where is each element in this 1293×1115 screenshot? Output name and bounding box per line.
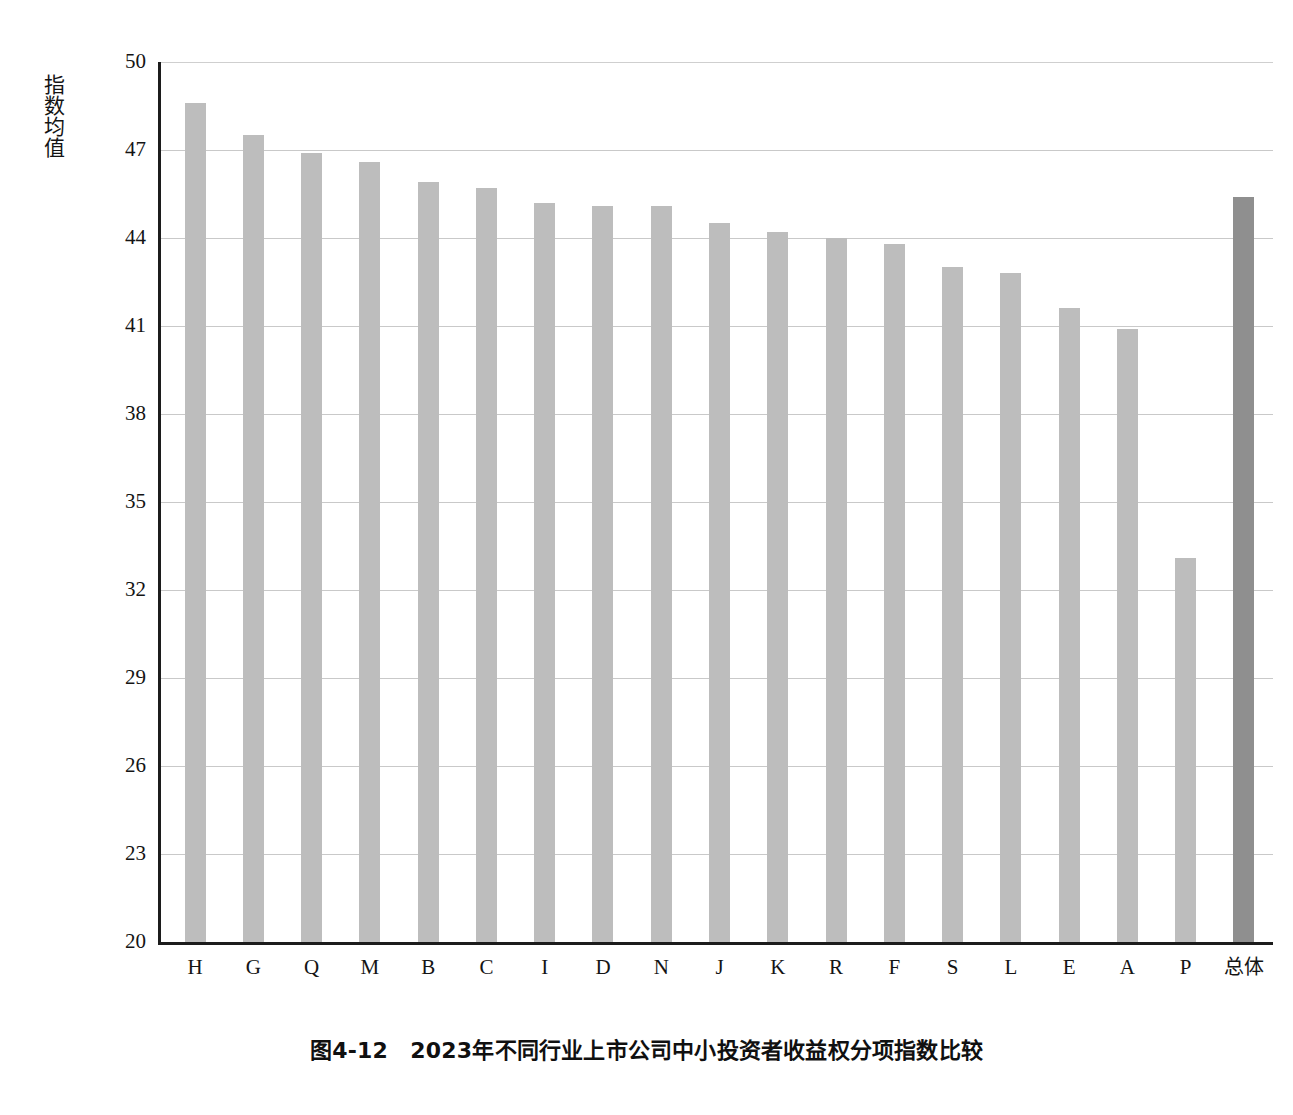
bar-F (884, 244, 905, 942)
y-axis-tick-label: 35 (86, 491, 146, 512)
figure-container: 指数均值 2023262932353841444750 HGQMBCIDNJKR… (0, 0, 1293, 1115)
y-axis-title: 指数均值 (34, 56, 64, 176)
bar-J (709, 223, 730, 942)
bar-H (185, 103, 206, 942)
x-axis-tick-label-C: C (456, 957, 516, 978)
bar-A (1117, 329, 1138, 942)
y-axis-tick-label: 29 (86, 667, 146, 688)
y-axis-line (158, 62, 161, 945)
bar-N (651, 206, 672, 942)
gridline (158, 150, 1273, 151)
x-axis-tick-label-B: B (398, 957, 458, 978)
plot-area (158, 62, 1273, 945)
bar-D (592, 206, 613, 942)
y-axis-tick-label: 47 (86, 139, 146, 160)
y-axis-tick-label: 38 (86, 403, 146, 424)
x-axis-tick-label-G: G (223, 957, 283, 978)
y-axis-tick-label: 32 (86, 579, 146, 600)
x-axis-tick-label-P: P (1156, 957, 1216, 978)
y-axis-tick-label: 26 (86, 755, 146, 776)
x-axis-tick-label-E: E (1039, 957, 1099, 978)
x-axis-tick-label-N: N (631, 957, 691, 978)
x-axis-tick-label-H: H (165, 957, 225, 978)
x-axis-tick-label-M: M (340, 957, 400, 978)
bar-L (1000, 273, 1021, 942)
bar-I (534, 203, 555, 942)
x-axis-tick-label-Q: Q (282, 957, 342, 978)
bar-P (1175, 558, 1196, 942)
x-axis-tick-label-K: K (748, 957, 808, 978)
bar-C (476, 188, 497, 942)
bar-G (243, 135, 264, 942)
x-axis-tick-label-J: J (690, 957, 750, 978)
bar-Q (301, 153, 322, 942)
y-axis-tick-label: 50 (86, 51, 146, 72)
x-axis-tick-label-L: L (981, 957, 1041, 978)
bar-B (418, 182, 439, 942)
bar-总体 (1233, 197, 1254, 942)
y-axis-tick-label: 20 (86, 931, 146, 952)
x-axis-tick-label-S: S (923, 957, 983, 978)
bar-E (1059, 308, 1080, 942)
gridline (158, 62, 1273, 63)
x-axis-line (158, 942, 1273, 945)
x-axis-tick-label-A: A (1097, 957, 1157, 978)
x-axis-tick-label-I: I (515, 957, 575, 978)
x-axis-tick-label-F: F (864, 957, 924, 978)
bar-M (359, 162, 380, 942)
bar-K (767, 232, 788, 942)
figure-caption: 图4-12 2023年不同行业上市公司中小投资者收益权分项指数比较 (0, 1032, 1293, 1064)
bar-S (942, 267, 963, 942)
bar-R (826, 238, 847, 942)
y-axis-tick-label: 44 (86, 227, 146, 248)
x-axis-tick-label-总体: 总体 (1214, 957, 1274, 977)
y-axis-tick-label: 23 (86, 843, 146, 864)
x-axis-tick-label-D: D (573, 957, 633, 978)
x-axis-tick-label-R: R (806, 957, 866, 978)
y-axis-tick-label: 41 (86, 315, 146, 336)
